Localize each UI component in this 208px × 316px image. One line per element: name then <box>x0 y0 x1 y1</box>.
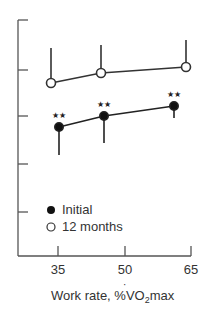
x-tick-label-35: 35 <box>51 262 65 277</box>
series-initial <box>55 102 178 155</box>
vo2-dot-mark: · <box>123 279 126 290</box>
series-12-months <box>47 40 191 88</box>
y-axis <box>18 20 28 256</box>
significance-stars-65: ★★ <box>167 90 181 99</box>
chart: 35 50 65 ★★ ★★ ★★ Initial 12 months Work… <box>0 0 208 316</box>
legend-filled-circle-icon <box>47 206 55 214</box>
x-axis-label: Work rate, %VO2max <box>51 288 175 305</box>
legend-initial-label: Initial <box>62 202 92 217</box>
legend-12-months-label: 12 months <box>62 219 123 234</box>
x-tick-label-65: 65 <box>184 262 198 277</box>
legend: Initial 12 months <box>47 202 123 234</box>
legend-open-circle-icon <box>47 223 55 231</box>
x-tick-label-50: 50 <box>118 262 132 277</box>
significance-stars-50: ★★ <box>97 100 111 109</box>
x-axis <box>18 246 191 256</box>
significance-stars-35: ★★ <box>52 111 66 120</box>
